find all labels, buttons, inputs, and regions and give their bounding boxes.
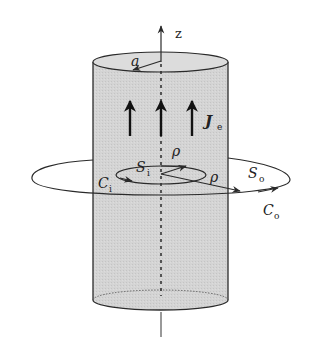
cylinder <box>93 52 228 310</box>
inner-surface-sub: i <box>147 168 150 178</box>
outer-contour-label: C <box>263 202 274 218</box>
rho-inner-label: ρ <box>171 143 181 159</box>
inner-contour-sub: i <box>109 184 112 194</box>
radius-label: a <box>131 53 139 69</box>
inner-contour-label: C <box>98 175 109 191</box>
rho-outer-label: ρ <box>209 169 219 185</box>
outer-surface-label: S <box>248 165 258 181</box>
z-axis-label: z <box>175 26 182 41</box>
cylinder-diagram: z a J e S o C o S i C i ρ ρ <box>0 0 314 355</box>
inner-surface-label: S <box>136 159 146 175</box>
current-subscript: e <box>217 122 222 132</box>
outer-contour-sub: o <box>274 211 279 221</box>
outer-surface-sub: o <box>259 174 264 184</box>
